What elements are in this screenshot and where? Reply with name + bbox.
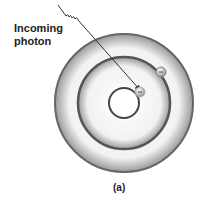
incoming-photon-label: Incoming photon <box>14 22 63 48</box>
label-line-1: Incoming <box>14 22 63 35</box>
electron-outer <box>156 67 166 77</box>
electron-inner <box>135 87 145 97</box>
inner-orbit <box>109 88 139 118</box>
label-line-2: photon <box>14 35 63 48</box>
caption: (a) <box>113 181 125 194</box>
